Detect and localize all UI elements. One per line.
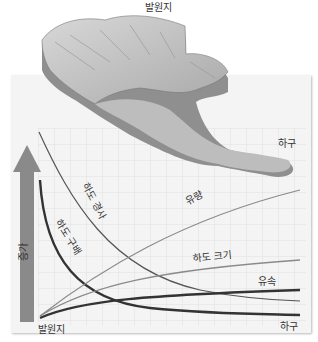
mouth-label-bottom: 하구 <box>280 320 298 332</box>
increase-label: 증가 <box>18 243 29 261</box>
mouth-label-right: 하구 <box>278 137 296 149</box>
velocity-label: 유속 <box>258 276 276 287</box>
source-label-bottom: 발원지 <box>38 324 65 335</box>
river-profile-diagram: 증가 발원지 하구 발원지 하구 하도 경사 하도 구배 유량 하도 크기 유속 <box>0 0 318 342</box>
source-label-top: 발원지 <box>145 2 172 13</box>
increase-arrow <box>13 145 41 322</box>
